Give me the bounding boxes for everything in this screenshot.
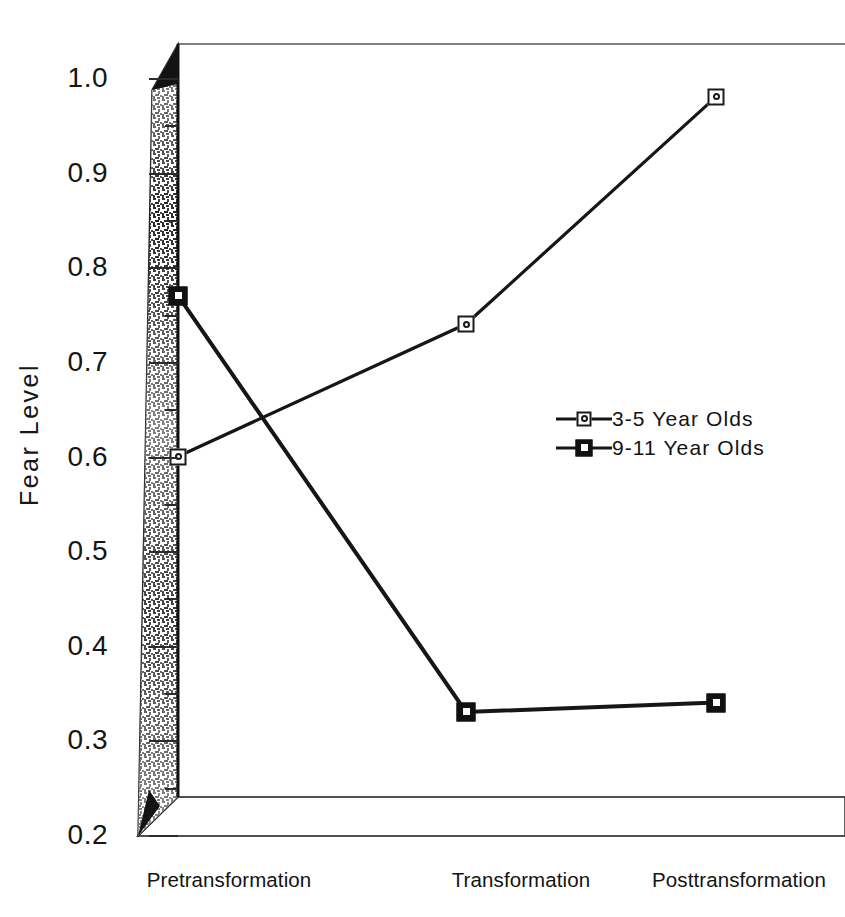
y-tick-major (149, 362, 178, 364)
legend-marker-3-5 (556, 408, 612, 430)
legend-marker-9-11 (556, 437, 612, 459)
chart-figure: 1.00.90.80.70.60.50.40.30.2 Fear Level P… (0, 0, 845, 917)
filled-square-marker-icon (707, 693, 726, 712)
y-tick-major (149, 78, 178, 80)
y-tick-major (149, 740, 178, 742)
y-tick-minor (165, 693, 178, 695)
y-tick-minor (165, 315, 178, 317)
y-tick-major (149, 457, 178, 459)
open-square-circle-marker-icon (708, 88, 725, 105)
y-tick-major (149, 835, 178, 837)
filled-square-marker-icon (169, 286, 188, 305)
filled-square-marker-icon (457, 702, 476, 721)
y-tick-minor (165, 220, 178, 222)
legend-label-3-5: 3-5 Year Olds (612, 407, 754, 431)
legend-label-9-11: 9-11 Year Olds (612, 436, 765, 460)
chart-legend: 3-5 Year Olds 9-11 Year Olds (556, 404, 836, 462)
open-square-circle-marker-icon (577, 411, 592, 426)
y-tick-minor (165, 504, 178, 506)
y-tick-major (149, 646, 178, 648)
filled-square-marker-icon (576, 439, 593, 456)
y-tick-minor (165, 409, 178, 411)
x-tick-label: Transformation (452, 868, 591, 892)
y-tick-minor (165, 788, 178, 790)
legend-item-3-5: 3-5 Year Olds (556, 404, 836, 433)
y-tick-major (149, 173, 178, 175)
y-tick-major (149, 551, 178, 553)
y-tick-major (149, 267, 178, 269)
y-tick-minor (165, 125, 178, 127)
x-tick-label: Posttransformation (652, 868, 826, 892)
y-tick-minor (165, 598, 178, 600)
open-square-circle-marker-icon (458, 316, 475, 333)
x-tick-label: Pretransformation (147, 868, 312, 892)
legend-item-9-11: 9-11 Year Olds (556, 433, 836, 462)
